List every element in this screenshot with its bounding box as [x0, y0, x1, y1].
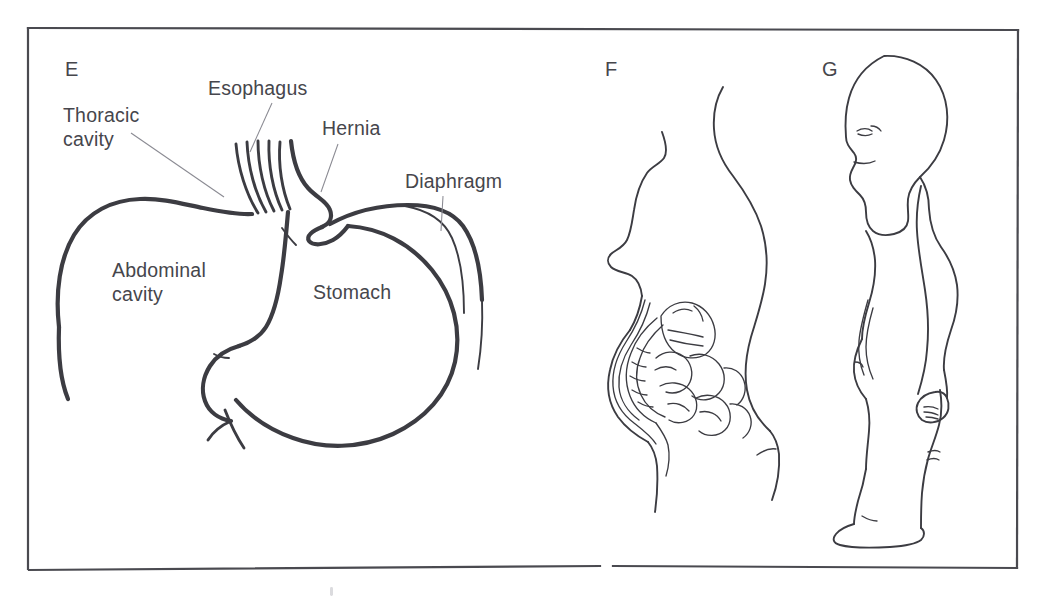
- panel-g-illustration: G: [822, 56, 958, 548]
- leader-hernia: [321, 144, 338, 192]
- infant-finger-line-2: [924, 412, 938, 415]
- infant-mouth: [854, 161, 875, 163]
- panel-letter-f: F: [605, 58, 617, 80]
- infant-eye-lower: [858, 134, 872, 136]
- duodenum-hook: [208, 421, 231, 440]
- label-diaphragm: Diaphragm: [405, 170, 502, 192]
- panel-e-illustration: E Thoracic cavity Esophagus Hernia Diaph…: [58, 58, 503, 448]
- torso-posterior-contour: [714, 87, 770, 431]
- frame-top-edge: [28, 28, 1018, 30]
- small-bowel-loop-8: [700, 411, 721, 421]
- label-thoracic-cavity-line-1: Thoracic: [63, 104, 139, 126]
- stomach-lesser-curvature: [239, 212, 288, 346]
- haustra-tick-3: [630, 376, 645, 381]
- label-esophagus-line-1: Esophagus: [208, 77, 307, 99]
- frame-bottom-edge-right: [613, 566, 1017, 568]
- abdomen-lower-to-groin: [648, 442, 657, 512]
- intestines-group: [626, 302, 751, 476]
- hernia-pouch-lip: [308, 226, 348, 244]
- infant-foot-outline: [834, 524, 924, 548]
- intestine-colon-haustra-2: [668, 330, 703, 337]
- label-stomach-line-1: Stomach: [313, 281, 391, 303]
- abdominal-wall-lower-left: [59, 327, 68, 399]
- label-stomach: Stomach: [313, 281, 391, 303]
- infant-back-contour: [920, 177, 958, 370]
- label-abdominal-cavity-line-2: cavity: [112, 283, 163, 305]
- figure-root: E Thoracic cavity Esophagus Hernia Diaph…: [0, 0, 1042, 598]
- anatomical-figure-svg: E Thoracic cavity Esophagus Hernia Diaph…: [0, 0, 1042, 598]
- small-bowel-loop-7: [668, 403, 689, 411]
- infant-belly-shade-2: [866, 308, 873, 379]
- esophagus-right-wall: [291, 141, 331, 227]
- gluteal-crease: [757, 449, 776, 455]
- duodenum-tail: [225, 410, 244, 448]
- infant-head-outline: [845, 56, 947, 235]
- intestine-colon-haustra-1: [673, 309, 692, 313]
- frame-bottom-edge-left: [29, 566, 600, 570]
- leader-thoracic-cavity: [131, 133, 224, 197]
- label-abdominal-cavity: Abdominal cavity: [112, 259, 212, 305]
- infant-brow: [871, 126, 881, 131]
- infant-thigh-front: [866, 399, 869, 469]
- small-bowel-loop-9: [655, 367, 676, 370]
- infant-ankle-crease: [862, 516, 877, 521]
- buttock-thigh-contour: [770, 431, 779, 500]
- leader-diaphragm: [441, 196, 443, 231]
- small-bowel-loop-2: [690, 354, 724, 400]
- scan-speck-artifact: [330, 587, 333, 596]
- infant-shin-front: [854, 469, 866, 524]
- stomach-greater-curvature: [236, 226, 457, 446]
- abdomen-bulge-outline: [608, 330, 648, 442]
- esophagus-striations: [236, 141, 290, 213]
- infant-finger-line-1: [924, 407, 938, 409]
- frame-right-edge: [1017, 30, 1018, 568]
- small-bowel-loop-4: [696, 395, 730, 435]
- label-abdominal-cavity-line-1: Abdominal: [112, 259, 206, 281]
- small-bowel-loop-6: [730, 404, 751, 438]
- panel-letter-g: G: [822, 58, 838, 80]
- label-esophagus: Esophagus: [208, 77, 307, 99]
- torso-anterior-contour: [608, 132, 666, 296]
- label-hernia-line-1: Hernia: [322, 117, 381, 139]
- small-bowel-loop-5: [724, 368, 745, 405]
- infant-knee-crease-2: [927, 459, 939, 461]
- infant-knee-crease: [928, 451, 940, 453]
- esophagus-striation-5: [279, 142, 290, 209]
- label-thoracic-cavity: Thoracic cavity: [63, 104, 145, 150]
- diaphragm-inner-line: [405, 206, 464, 313]
- label-thoracic-cavity-line-2: cavity: [63, 128, 114, 150]
- infant-belly-bulge: [854, 339, 866, 399]
- panel-letter-e: E: [65, 58, 78, 80]
- infant-arm-anterior: [917, 186, 928, 394]
- diaphragm-outer-line: [478, 300, 482, 369]
- intestine-colon-haustra-3: [670, 340, 703, 346]
- panel-f-illustration: F: [605, 58, 779, 512]
- infant-eye: [857, 129, 872, 131]
- label-diaphragm-line-1: Diaphragm: [405, 170, 502, 192]
- infant-finger-line-3: [926, 417, 938, 419]
- label-hernia: Hernia: [322, 117, 381, 139]
